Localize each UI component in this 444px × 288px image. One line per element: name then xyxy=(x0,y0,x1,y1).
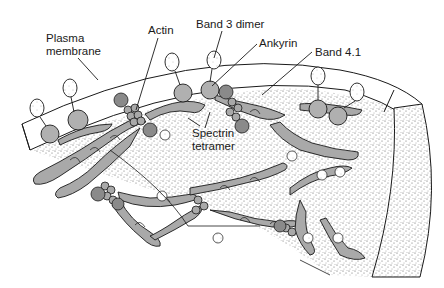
label-plasma-membrane: Plasma membrane xyxy=(46,32,101,58)
label-ankyrin: Ankyrin xyxy=(259,37,297,50)
membrane-cytoskeleton-diagram: Plasma membrane Actin Band 3 dimer Ankyr… xyxy=(0,0,444,288)
label-actin: Actin xyxy=(148,24,174,37)
label-spectrin-tetramer: Spectrin tetramer xyxy=(192,127,235,153)
label-plasma-membrane-line1: Plasma xyxy=(46,32,101,45)
label-band3-dimer: Band 3 dimer xyxy=(196,18,264,31)
label-plasma-membrane-line2: membrane xyxy=(46,45,101,58)
label-spectrin-line2: tetramer xyxy=(192,140,235,153)
label-band41: Band 4.1 xyxy=(315,46,361,59)
label-spectrin-line1: Spectrin xyxy=(192,127,235,140)
